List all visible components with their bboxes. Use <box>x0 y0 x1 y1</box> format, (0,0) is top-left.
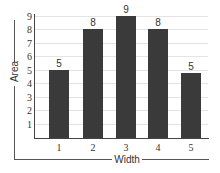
x-axis-line <box>34 138 209 139</box>
y-tick-label: 3 <box>22 93 32 103</box>
bar <box>148 29 168 138</box>
y-tick-label: 5 <box>22 66 32 76</box>
x-tick-label: 5 <box>181 143 201 153</box>
bar <box>83 29 103 138</box>
x-tick-label: 4 <box>148 143 168 153</box>
bar <box>49 70 69 138</box>
bar-value-label: 5 <box>49 59 69 69</box>
x-tick-label: 1 <box>49 143 69 153</box>
y-tick-label: 9 <box>22 12 32 22</box>
x-title-bracket-left <box>14 159 112 160</box>
bar-value-label: 9 <box>116 5 136 15</box>
y-tick-label: 6 <box>22 52 32 62</box>
x-tick-label: 3 <box>116 143 136 153</box>
bar <box>181 73 201 138</box>
x-axis-title: Width <box>113 154 141 165</box>
y-tick-label: 7 <box>22 39 32 49</box>
bar-value-label: 8 <box>83 18 103 28</box>
bar-value-label: 5 <box>181 62 201 72</box>
y-tick-label: 8 <box>22 25 32 35</box>
y-tick-label: 1 <box>22 120 32 130</box>
bar <box>116 16 136 138</box>
y-axis-line <box>34 14 35 139</box>
bar-value-label: 8 <box>148 18 168 28</box>
x-tick-label: 2 <box>83 143 103 153</box>
y-tick-label: 2 <box>22 106 32 116</box>
x-title-bracket-right <box>142 159 209 160</box>
y-tick-label: 4 <box>22 79 32 89</box>
y-axis-title: Area <box>9 56 20 88</box>
y-title-bracket-bottom <box>14 86 15 159</box>
